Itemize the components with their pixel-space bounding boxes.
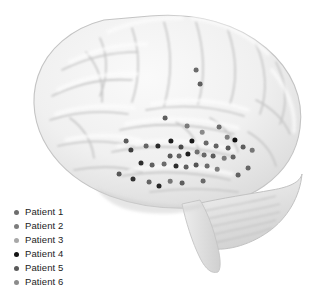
- legend-item-label: Patient 2: [25, 220, 63, 232]
- legend-item-label: Patient 5: [25, 262, 63, 274]
- legend-swatch-icon: [14, 266, 19, 271]
- legend-item[interactable]: Patient 2: [14, 220, 63, 232]
- legend-item-label: Patient 1: [25, 206, 63, 218]
- legend-item[interactable]: Patient 3: [14, 234, 63, 246]
- legend-swatch-icon: [14, 238, 19, 243]
- legend-item[interactable]: Patient 5: [14, 262, 63, 274]
- legend-item-label: Patient 6: [25, 276, 63, 288]
- legend-item[interactable]: Patient 1: [14, 206, 63, 218]
- legend-item[interactable]: Patient 4: [14, 248, 63, 260]
- legend-swatch-icon: [14, 280, 19, 285]
- legend-item-label: Patient 3: [25, 234, 63, 246]
- legend-item[interactable]: Patient 6: [14, 276, 63, 288]
- legend-swatch-icon: [14, 210, 19, 215]
- legend-swatch-icon: [14, 252, 19, 257]
- legend-item-label: Patient 4: [25, 248, 63, 260]
- brain-electrode-coverage-figure: Patient 1Patient 2Patient 3Patient 4Pati…: [0, 0, 321, 297]
- legend-swatch-icon: [14, 224, 19, 229]
- patient-legend: Patient 1Patient 2Patient 3Patient 4Pati…: [14, 206, 63, 288]
